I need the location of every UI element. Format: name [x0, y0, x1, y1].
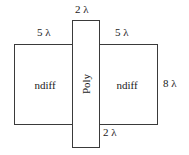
dimension-ndiff-left-width: 5 λ: [37, 27, 51, 38]
poly-gate-region: Poly: [72, 20, 100, 148]
layout-diagram: ndiff ndiff Poly 2 λ 5 λ 5 λ 8 λ 2 λ: [0, 0, 189, 155]
ndiff-right-region: ndiff: [96, 44, 158, 125]
poly-label: Poly: [81, 74, 92, 94]
ndiff-left-region: ndiff: [14, 44, 76, 125]
ndiff-left-label: ndiff: [15, 79, 75, 90]
dimension-ndiff-height: 8 λ: [163, 78, 177, 89]
dimension-poly-overhang-bottom: 2 λ: [103, 127, 117, 138]
ndiff-right-label: ndiff: [97, 79, 157, 90]
dimension-ndiff-right-width: 5 λ: [115, 27, 129, 38]
dimension-poly-width: 2 λ: [75, 4, 89, 15]
